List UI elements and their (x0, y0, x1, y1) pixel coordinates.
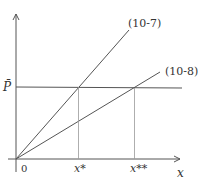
x-star-label: x* (74, 163, 86, 174)
line-10-7-label: (10-7) (128, 18, 161, 29)
price-line (16, 87, 182, 88)
origin-label: 0 (21, 164, 27, 174)
x-double-star-label: x** (130, 163, 147, 174)
line-10-7 (16, 30, 129, 159)
x-axis-label: x (177, 167, 184, 179)
line-10-8 (16, 72, 160, 159)
diagram-canvas (0, 0, 198, 184)
economics-diagram: (10-7) (10-8) P̄ 0 x* x** x (0, 0, 198, 184)
price-label: P̄ (3, 81, 11, 93)
line-10-8-label: (10-8) (165, 66, 198, 77)
